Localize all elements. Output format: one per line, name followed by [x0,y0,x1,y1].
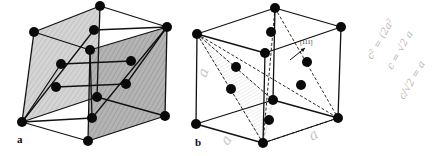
atom [160,111,170,121]
atom [51,82,61,92]
figure-a-label: a [17,133,23,145]
crystal-lattice-diagram: a [111] b aaac² = (2a²c = √2 ac/√2 = a [0,0,446,156]
bond-line [94,27,167,30]
atom [126,56,136,66]
bond-line [338,27,341,118]
atom [29,27,39,37]
handwritten-equation: c = √2 a [384,29,415,71]
atom [270,3,280,13]
bond-line [22,122,88,141]
bond-line [273,100,338,118]
atom [192,29,202,39]
atom [162,22,172,32]
bond-line [100,6,167,27]
atom [231,62,241,72]
miller-index-label: [111] [300,39,313,46]
figure-a-cube: a [17,1,172,146]
atom [121,79,131,89]
atom [83,136,93,146]
figure-b-cube: [111] b [191,3,346,148]
handwritten-equation: c/√2 = a [396,59,427,101]
figure-b-atoms [191,3,346,148]
atom [258,138,268,148]
atom [302,57,312,67]
atom [95,1,105,11]
atom [296,80,306,90]
bond-line [273,8,275,100]
atom [92,92,102,102]
bond-line [197,8,275,34]
atom [17,117,27,127]
atom [333,113,343,123]
atom [226,84,236,94]
handwritten-side-label: a [306,126,321,144]
bond-line [275,8,341,27]
atom [56,59,66,69]
direction-arrow-icon [290,48,305,60]
atom [87,113,97,123]
atom [85,45,95,55]
bond-line [196,34,197,124]
atom [264,115,274,125]
atom [191,119,201,129]
atom [336,22,346,32]
atom [268,95,278,105]
atom [89,25,99,35]
atom [266,27,276,37]
atom [260,48,270,58]
figure-b-label: b [195,136,201,148]
